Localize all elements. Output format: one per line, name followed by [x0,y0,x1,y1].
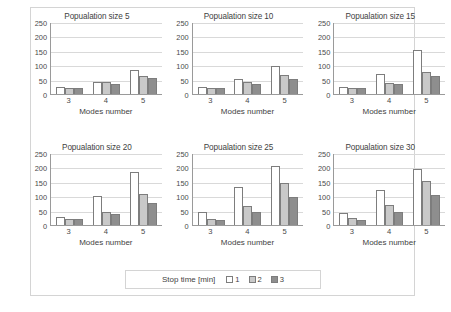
plot-wrapper: 050100150200250345Modes number [170,23,304,105]
bar-group [334,23,371,94]
x-axis-title: Modes number [50,238,162,247]
bar [74,88,83,94]
bar [234,187,243,225]
bar-group [230,23,267,94]
bar [74,219,83,225]
legend-swatch-2-icon [249,276,256,283]
bar [289,79,298,94]
x-axis-ticks: 345 [50,227,162,236]
chart-panel: Popualation size 15050100150200250345Mod… [309,8,451,139]
plot-area [192,23,304,95]
bar [102,82,111,94]
panel-title: Popualation size 25 [168,143,310,152]
y-tick-label: 50 [322,207,330,216]
y-axis-labels: 050100150200250 [28,154,48,226]
y-axis-labels: 050100150200250 [170,154,190,226]
x-tick-label: 3 [50,227,87,236]
x-tick-label: 5 [124,227,161,236]
y-tick-label: 0 [185,91,189,100]
plot-area [50,23,162,95]
bars-layer [334,154,445,225]
bar [280,183,289,225]
y-tick-label: 250 [35,19,47,28]
x-tick-label: 4 [87,227,124,236]
x-tick-label: 3 [333,227,370,236]
x-axis-title: Modes number [50,107,162,116]
bar [413,50,422,94]
chart-panel: Popualation size 30050100150200250345Mod… [309,139,451,270]
y-tick-label: 50 [180,207,188,216]
bar [65,88,74,94]
x-tick-label: 4 [229,227,266,236]
bar-group [51,23,88,94]
bars-layer [193,154,304,225]
x-tick-label: 3 [192,227,229,236]
bars-layer [334,23,445,94]
bar [139,76,148,94]
y-tick-label: 0 [326,91,330,100]
bar-group [408,154,445,225]
bar [394,212,403,225]
x-tick-label: 4 [371,96,408,105]
bars-layer [193,23,304,94]
panel-title: Popualation size 15 [309,12,451,21]
y-tick-label: 0 [43,91,47,100]
bar [198,87,207,94]
bar [207,88,216,94]
y-tick-label: 50 [39,76,47,85]
y-tick-label: 250 [35,150,47,159]
x-tick-label: 5 [124,96,161,105]
bar-group [193,23,230,94]
chart-figure: Popualation size 5050100150200250345Mode… [0,0,451,312]
legend-swatch-1-icon [226,276,233,283]
plot-area [50,154,162,226]
bar [252,84,261,94]
panel-title: Popualation size 30 [309,143,451,152]
panel-title: Popualation size 5 [26,12,168,21]
plot-wrapper: 050100150200250345Modes number [28,23,162,105]
legend-swatch-3-icon [271,276,278,283]
x-axis-ticks: 345 [50,96,162,105]
bar [431,76,440,94]
x-tick-label: 5 [408,227,445,236]
y-tick-label: 150 [176,178,188,187]
y-tick-label: 100 [318,62,330,71]
bar-group [88,23,125,94]
x-axis-ticks: 345 [192,96,304,105]
chart-panel: Popualation size 10050100150200250345Mod… [168,8,310,139]
chart-legend: Stop time [min] 1 2 3 [125,270,321,289]
y-tick-label: 100 [35,62,47,71]
bar [289,197,298,225]
x-tick-label: 5 [266,96,303,105]
bar [271,166,280,225]
y-tick-label: 100 [318,193,330,202]
y-tick-label: 200 [35,33,47,42]
chart-panel: Popualation size 25050100150200250345Mod… [168,139,310,270]
bar [56,217,65,225]
bar [357,88,366,94]
bar [280,75,289,94]
x-tick-label: 3 [333,96,370,105]
bar [56,87,65,94]
bar [385,205,394,225]
y-tick-label: 150 [35,178,47,187]
bar-group [125,23,162,94]
bar [139,194,148,225]
plot-wrapper: 050100150200250345Modes number [170,154,304,236]
bar-group [266,23,303,94]
x-tick-label: 3 [50,96,87,105]
y-tick-label: 200 [318,164,330,173]
x-tick-label: 3 [192,96,229,105]
y-tick-label: 150 [318,178,330,187]
y-axis-labels: 050100150200250 [28,23,48,95]
y-tick-label: 100 [176,62,188,71]
y-axis-labels: 050100150200250 [311,154,331,226]
panel-title: Popualation size 10 [168,12,310,21]
x-tick-label: 5 [408,96,445,105]
x-tick-label: 4 [87,96,124,105]
x-tick-label: 5 [266,227,303,236]
chart-panel: Popualation size 20050100150200250345Mod… [26,139,168,270]
bar [339,213,348,225]
x-axis-title: Modes number [192,238,304,247]
plot-wrapper: 050100150200250345Modes number [311,23,445,105]
